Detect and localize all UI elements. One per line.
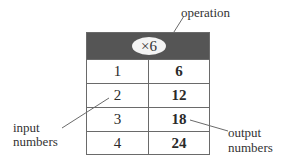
output-cell: 6 xyxy=(149,60,209,83)
input-cell: 3 xyxy=(87,108,149,131)
input-label-line2: numbers xyxy=(13,135,58,149)
table-row: 3 18 xyxy=(87,107,209,131)
input-cell: 2 xyxy=(87,84,149,107)
output-label-line2: numbers xyxy=(228,141,273,155)
table-row: 4 24 xyxy=(87,131,209,155)
output-cell: 24 xyxy=(149,132,209,155)
input-label-line1: input xyxy=(13,121,40,135)
operation-header: ×6 xyxy=(87,33,209,59)
output-cell: 18 xyxy=(149,108,209,131)
input-cell: 1 xyxy=(87,60,149,83)
table-row: 2 12 xyxy=(87,83,209,107)
operation-oval: ×6 xyxy=(132,37,166,55)
table-row: 1 6 xyxy=(87,59,209,83)
function-table: ×6 1 6 2 12 3 18 4 24 xyxy=(86,32,210,155)
output-cell: 12 xyxy=(149,84,209,107)
output-label-line1: output xyxy=(228,126,261,140)
input-cell: 4 xyxy=(87,132,149,155)
operation-label: operation xyxy=(181,6,230,20)
